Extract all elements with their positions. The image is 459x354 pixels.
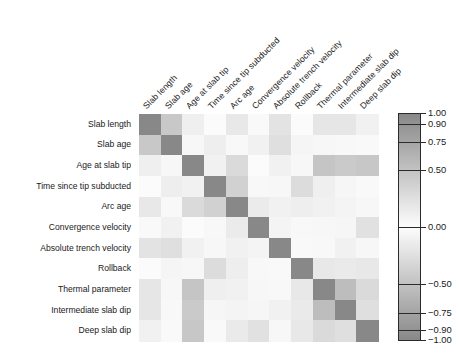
heatmap-cell bbox=[356, 176, 378, 197]
heatmap-cell bbox=[291, 300, 313, 321]
heatmap-cell bbox=[204, 300, 226, 321]
heatmap-cell bbox=[204, 176, 226, 197]
heatmap-cell bbox=[161, 114, 183, 135]
heatmap-cell bbox=[139, 258, 161, 279]
heatmap-cell bbox=[182, 197, 204, 218]
heatmap-cell bbox=[248, 114, 270, 135]
heatmap-cell bbox=[161, 279, 183, 300]
heatmap-cell bbox=[313, 217, 335, 238]
heatmap-cell bbox=[356, 135, 378, 156]
colorbar-tick-label: −0.50 bbox=[428, 279, 452, 289]
heatmap-cell bbox=[313, 135, 335, 156]
heatmap-cell bbox=[291, 176, 313, 197]
heatmap-cell bbox=[269, 258, 291, 279]
heatmap-cell bbox=[226, 176, 248, 197]
heatmap-cell bbox=[226, 320, 248, 341]
heatmap-cell bbox=[248, 197, 270, 218]
heatmap-cell bbox=[313, 114, 335, 135]
heatmap-cell bbox=[161, 258, 183, 279]
heatmap-cell bbox=[356, 217, 378, 238]
heatmap-cell bbox=[291, 258, 313, 279]
colorbar-tick-label: 0.90 bbox=[428, 119, 446, 129]
colorbar-tick-line bbox=[398, 124, 421, 125]
heatmap-cell bbox=[291, 320, 313, 341]
correlation-matrix-figure: Slab lengthSlab ageAge at slab tipTime s… bbox=[0, 0, 459, 354]
colorbar-tick-mark bbox=[421, 340, 426, 341]
row-label: Time since tip subducted bbox=[36, 181, 131, 192]
heatmap-cell bbox=[139, 217, 161, 238]
heatmap-cell bbox=[313, 238, 335, 259]
heatmap-cell bbox=[226, 300, 248, 321]
heatmap-cell bbox=[139, 279, 161, 300]
heatmap-cell bbox=[335, 258, 357, 279]
heatmap-cell bbox=[291, 114, 313, 135]
heatmap-cell bbox=[335, 300, 357, 321]
heatmap-cell bbox=[204, 238, 226, 259]
colorbar-tick-mark bbox=[421, 170, 426, 171]
heatmap-cell bbox=[248, 320, 270, 341]
heatmap-cell bbox=[335, 238, 357, 259]
heatmap-cell bbox=[204, 258, 226, 279]
heatmap-cell bbox=[182, 155, 204, 176]
heatmap-cell bbox=[269, 114, 291, 135]
colorbar-tick-label: 0.00 bbox=[428, 222, 446, 232]
heatmap-cell bbox=[182, 114, 204, 135]
heatmap-cell bbox=[269, 320, 291, 341]
heatmap-cell bbox=[204, 114, 226, 135]
colorbar-tick-line bbox=[398, 170, 421, 171]
colorbar-tick-mark bbox=[421, 124, 426, 125]
colorbar-tick-label: 0.50 bbox=[428, 165, 446, 175]
heatmap-cell bbox=[182, 279, 204, 300]
heatmap-cell bbox=[226, 238, 248, 259]
row-label: Convergence velocity bbox=[49, 222, 131, 233]
heatmap-cell bbox=[335, 320, 357, 341]
heatmap-cell bbox=[313, 279, 335, 300]
heatmap-cell bbox=[139, 114, 161, 135]
colorbar-tick-label: −0.75 bbox=[428, 308, 452, 318]
heatmap-cell bbox=[335, 135, 357, 156]
heatmap-cell bbox=[291, 279, 313, 300]
colorbar-tick-mark bbox=[421, 313, 426, 314]
heatmap-cell bbox=[182, 135, 204, 156]
colorbar-tick-line bbox=[398, 142, 421, 143]
heatmap-cell bbox=[182, 238, 204, 259]
heatmap-cell bbox=[248, 135, 270, 156]
heatmap-cell bbox=[335, 279, 357, 300]
heatmap-cell bbox=[335, 217, 357, 238]
heatmap-cell bbox=[335, 197, 357, 218]
heatmap-cell bbox=[356, 258, 378, 279]
row-label: Rollback bbox=[98, 263, 131, 274]
heatmap-cell bbox=[226, 155, 248, 176]
heatmap-cell bbox=[269, 238, 291, 259]
heatmap-cell bbox=[313, 197, 335, 218]
colorbar-tick-line bbox=[398, 330, 421, 331]
heatmap-cell bbox=[291, 238, 313, 259]
colorbar-tick-label: 0.75 bbox=[428, 137, 446, 147]
heatmap-cell bbox=[204, 197, 226, 218]
heatmap-cell bbox=[269, 197, 291, 218]
heatmap-cell bbox=[139, 135, 161, 156]
heatmap-cell bbox=[248, 258, 270, 279]
heatmap-cell bbox=[313, 300, 335, 321]
heatmap-cell bbox=[226, 217, 248, 238]
heatmap-cell bbox=[291, 217, 313, 238]
heatmap-cell bbox=[356, 155, 378, 176]
heatmap-cell bbox=[356, 279, 378, 300]
heatmap-cell bbox=[335, 155, 357, 176]
heatmap-grid bbox=[139, 114, 378, 341]
heatmap-cell bbox=[248, 238, 270, 259]
heatmap-cell bbox=[139, 176, 161, 197]
colorbar-tick-line bbox=[398, 284, 421, 285]
heatmap-cell bbox=[139, 155, 161, 176]
heatmap-cell bbox=[161, 320, 183, 341]
heatmap-cell bbox=[291, 197, 313, 218]
heatmap-cell bbox=[139, 300, 161, 321]
column-axis-labels: Slab lengthSlab ageAge at slab tipTime s… bbox=[0, 0, 459, 114]
heatmap-cell bbox=[335, 176, 357, 197]
heatmap-cell bbox=[291, 155, 313, 176]
colorbar-tick-mark bbox=[421, 142, 426, 143]
heatmap-cell bbox=[182, 258, 204, 279]
heatmap-cell bbox=[356, 197, 378, 218]
row-label: Deep slab dip bbox=[78, 325, 131, 336]
heatmap-cell bbox=[204, 135, 226, 156]
